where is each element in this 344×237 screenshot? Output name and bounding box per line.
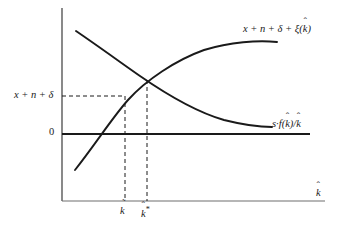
origin-label: 0: [49, 127, 54, 138]
k-tilde-glyph: ̃k: [120, 206, 125, 217]
effective-depreciation-curve: [75, 41, 277, 170]
star-superscript: *: [146, 205, 150, 214]
y-axis-value-label: x + n + δ: [14, 90, 53, 101]
k-hat-glyph: ̂k: [316, 188, 321, 199]
saving-curve-label: s·f(̂k)/̂k: [272, 119, 301, 130]
saving-label-prefix: s·f(: [272, 118, 285, 129]
solow-model-diagram: x + n + δ + ξ(̂k) s·f(̂k)/̂k x + n + δ 0…: [0, 0, 344, 237]
hat-accent: ̂: [316, 181, 321, 191]
x-tick-label-k-star: ̂k*: [141, 206, 150, 219]
growth-label-suffix: ): [307, 23, 311, 34]
x-axis-label: ̂k: [316, 188, 321, 199]
hat-accent: ̂: [285, 112, 290, 122]
k-hat-glyph: ̂k: [141, 209, 146, 220]
k-hat-glyph: ̂k: [303, 24, 308, 35]
hat-accent: ̂: [296, 112, 301, 122]
effective-depreciation-curve-label: x + n + δ + ξ(̂k): [243, 24, 311, 35]
k-hat-glyph: ̂k: [285, 119, 290, 130]
x-tick-label-k-tilde: ̃k: [120, 206, 125, 217]
saving-curve: [76, 31, 272, 127]
tilde-accent: ̃: [120, 199, 125, 209]
hat-accent: ̂: [303, 17, 308, 27]
k-hat-glyph-2: ̂k: [296, 119, 301, 130]
hat-accent: ̂: [141, 201, 146, 211]
growth-label-prefix: x + n + δ + ξ(: [243, 23, 303, 34]
